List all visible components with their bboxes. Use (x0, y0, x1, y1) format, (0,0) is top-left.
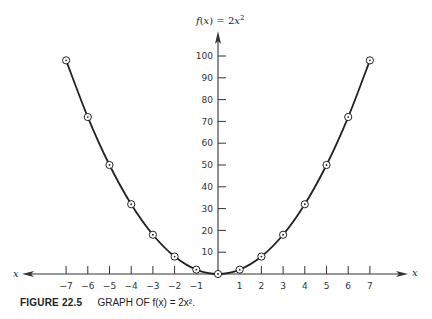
data-point-marker (258, 253, 265, 260)
data-point-marker (84, 113, 91, 120)
data-point-marker (193, 266, 200, 273)
y-axis-ticks: 102030405060708090100 (196, 51, 226, 257)
y-tick-label: 20 (202, 226, 214, 236)
data-point-marker (280, 231, 287, 238)
x-axis-left-label: x (13, 268, 19, 279)
y-tick-label: 10 (202, 247, 214, 257)
parabola-chart: 102030405060708090100 −7−6−5−4−3−2−11234… (0, 0, 432, 319)
y-tick-label: 50 (202, 160, 214, 170)
chart-title: f(x) = 2x2 (195, 14, 244, 26)
x-tick-label: 4 (302, 281, 308, 291)
data-point-marker (323, 161, 330, 168)
x-axis-right-label: x (412, 267, 418, 278)
y-tick-label: 70 (202, 117, 214, 127)
y-tick-label: 100 (196, 51, 213, 61)
x-tick-label: −7 (59, 281, 72, 291)
axes (22, 31, 408, 277)
data-point-marker (171, 253, 178, 260)
y-tick-label: 40 (202, 182, 214, 192)
figure-caption-text: GRAPH OF f(x) = 2x². (97, 297, 195, 308)
x-tick-label: 1 (237, 281, 243, 291)
x-tick-label: −4 (125, 281, 139, 291)
data-point-marker (106, 161, 113, 168)
data-point-marker (345, 113, 352, 120)
y-tick-label: 80 (202, 95, 214, 105)
x-tick-label: −1 (190, 281, 203, 291)
data-point-marker (149, 231, 156, 238)
data-point-marker (128, 201, 135, 208)
data-point-marker (366, 57, 373, 64)
x-tick-label: −6 (81, 281, 95, 291)
x-tick-label: 6 (345, 281, 351, 291)
data-point-marker (214, 270, 221, 277)
y-tick-label: 60 (202, 138, 214, 148)
x-tick-label: −2 (168, 281, 181, 291)
figure-number: FIGURE 22.5 (20, 297, 82, 308)
data-point-marker (63, 57, 70, 64)
x-axis-ticks: −7−6−5−4−3−2−11234567 (59, 266, 372, 291)
x-tick-label: 3 (280, 281, 286, 291)
figure-caption: FIGURE 22.5 GRAPH OF f(x) = 2x². (20, 297, 195, 308)
x-tick-label: 5 (324, 281, 330, 291)
y-tick-label: 90 (202, 73, 214, 83)
x-tick-label: −5 (103, 281, 116, 291)
y-tick-label: 30 (202, 204, 214, 214)
x-tick-label: 2 (259, 281, 265, 291)
x-tick-label: 7 (367, 281, 373, 291)
data-point-marker (301, 201, 308, 208)
x-tick-label: −3 (146, 281, 159, 291)
data-point-marker (236, 266, 243, 273)
